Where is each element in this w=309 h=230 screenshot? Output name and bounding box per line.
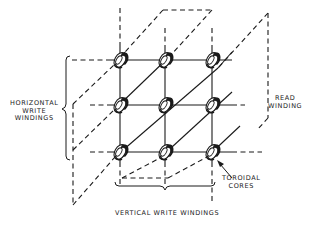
toroidal-core — [203, 50, 220, 69]
read-winding-label: READ WINDING — [268, 95, 302, 110]
toroidal-core — [156, 142, 173, 161]
toroidal-core — [203, 142, 220, 161]
toroidal-core — [111, 95, 128, 114]
label-line: WINDINGS — [10, 115, 58, 123]
core-matrix — [111, 50, 220, 161]
label-line: WINDING — [268, 103, 302, 111]
horizontal-write-windings-label: HORIZONTAL WRITE WINDINGS — [10, 100, 58, 123]
toroidal-core — [203, 95, 220, 114]
toroidal-core — [156, 95, 173, 114]
toroidal-core — [111, 50, 128, 69]
label-line: VERTICAL WRITE WINDINGS — [115, 210, 219, 218]
label-line: CORES — [222, 183, 260, 191]
vertical-write-windings-label: VERTICAL WRITE WINDINGS — [115, 210, 219, 218]
toroidal-cores-label: TOROIDAL CORES — [222, 175, 260, 190]
